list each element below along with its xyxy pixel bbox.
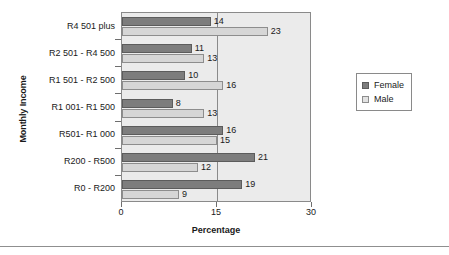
- bar-value-male: 16: [226, 80, 236, 90]
- bottom-divider: [0, 246, 449, 247]
- bar-value-female: 21: [258, 152, 268, 162]
- bar-value-male: 9: [182, 189, 187, 199]
- y-axis-category-label: R1 501 - R2 500: [0, 75, 115, 85]
- bar-female: [122, 44, 192, 53]
- bar-male: [122, 136, 217, 145]
- y-axis-category-label: R4 501 plus: [0, 21, 115, 31]
- plot-area: 14231113101681316152112199: [121, 12, 311, 202]
- bar-male: [122, 190, 179, 199]
- bar-female: [122, 17, 211, 26]
- legend-swatch-female: [362, 82, 369, 89]
- bar-value-male: 23: [271, 26, 281, 36]
- y-axis-tick: [115, 39, 121, 40]
- bar-male: [122, 27, 268, 36]
- bar-value-female: 19: [245, 179, 255, 189]
- legend-label: Female: [374, 80, 404, 90]
- chart-legend: FemaleMale: [356, 73, 412, 111]
- x-axis-title: Percentage: [121, 225, 311, 235]
- y-axis-tick: [115, 121, 121, 122]
- bar-value-female: 10: [188, 70, 198, 80]
- y-axis-tick: [115, 66, 121, 67]
- plot-inner: 14231113101681316152112199: [122, 13, 310, 201]
- bar-value-male: 13: [207, 53, 217, 63]
- legend-swatch-male: [362, 96, 369, 103]
- y-axis-category-label: R200 - R500: [0, 156, 115, 166]
- x-axis-tick-label: 30: [291, 207, 331, 217]
- bar-value-male: 13: [207, 108, 217, 118]
- x-axis-tick-label: 15: [196, 207, 236, 217]
- y-axis-category-label: R2 501 - R4 500: [0, 48, 115, 58]
- chart-figure: Monthly Income 1423111310168131615211219…: [0, 0, 449, 255]
- y-axis-tick: [115, 93, 121, 94]
- bar-female: [122, 99, 173, 108]
- bar-value-female: 11: [195, 43, 204, 53]
- bar-male: [122, 81, 223, 90]
- bar-male: [122, 109, 204, 118]
- x-axis-tick-label: 0: [101, 207, 141, 217]
- legend-item: Female: [362, 78, 404, 92]
- bar-male: [122, 163, 198, 172]
- bar-value-female: 14: [214, 16, 224, 26]
- bar-value-male: 12: [201, 162, 211, 172]
- bar-value-female: 16: [226, 125, 236, 135]
- y-axis-tick: [115, 175, 121, 176]
- y-axis-category-label: R1 001- R1 500: [0, 102, 115, 112]
- legend-item: Male: [362, 92, 404, 106]
- bar-female: [122, 180, 242, 189]
- y-axis-tick: [115, 148, 121, 149]
- legend-label: Male: [374, 94, 394, 104]
- bar-value-female: 8: [176, 98, 181, 108]
- bar-female: [122, 153, 255, 162]
- y-axis-category-label: R501- R1 000: [0, 129, 115, 139]
- bar-female: [122, 71, 185, 80]
- bar-male: [122, 54, 204, 63]
- bar-female: [122, 126, 223, 135]
- bar-value-male: 15: [220, 135, 230, 145]
- y-axis-category-label: R0 - R200: [0, 183, 115, 193]
